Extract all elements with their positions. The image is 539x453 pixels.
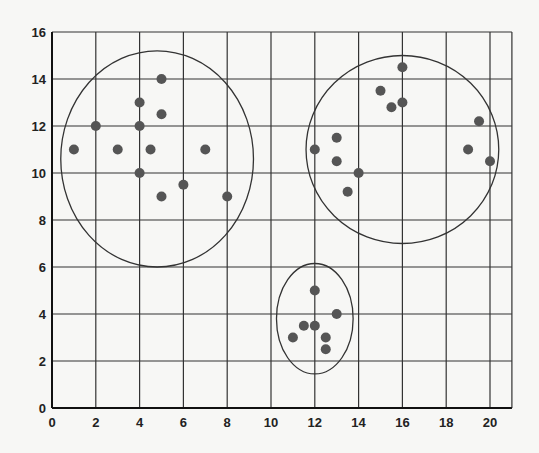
y-tick-label: 16 [32,25,46,40]
data-point [332,156,342,166]
data-point [299,321,309,331]
data-point [135,121,145,131]
x-tick-label: 10 [264,415,278,430]
data-point [397,62,407,72]
data-point [397,98,407,108]
data-point [146,145,156,155]
y-tick-label: 4 [39,307,47,322]
y-tick-label: 10 [32,166,46,181]
data-point [310,145,320,155]
x-axis-ticks: 02468101214161820 [48,415,497,430]
grid-lines [52,32,512,408]
y-axis-ticks: 0246810121416 [32,25,47,416]
y-tick-label: 8 [39,213,46,228]
scatter-chart: 02468101214161820 0246810121416 [0,0,539,453]
data-point [113,145,123,155]
data-point [376,86,386,96]
y-tick-label: 6 [39,260,46,275]
data-point [157,109,167,119]
data-point [321,344,331,354]
data-point [200,145,210,155]
x-tick-label: 20 [483,415,497,430]
x-tick-label: 14 [351,415,366,430]
x-tick-label: 8 [224,415,231,430]
y-tick-label: 0 [39,401,46,416]
data-point [343,187,353,197]
data-point [310,286,320,296]
data-point [321,333,331,343]
data-point [178,180,188,190]
x-tick-label: 0 [48,415,55,430]
y-tick-label: 12 [32,119,46,134]
data-point [157,192,167,202]
data-point [135,168,145,178]
x-tick-label: 12 [308,415,322,430]
data-points [69,62,495,354]
data-point [91,121,101,131]
data-point [332,309,342,319]
x-tick-label: 18 [439,415,453,430]
data-point [463,145,473,155]
x-tick-label: 16 [395,415,409,430]
x-tick-label: 6 [180,415,187,430]
y-tick-label: 14 [32,72,47,87]
cluster-ellipse [61,51,254,267]
data-point [310,321,320,331]
data-point [474,116,484,126]
x-tick-label: 2 [92,415,99,430]
cluster-ellipses [61,51,499,374]
data-point [157,74,167,84]
data-point [354,168,364,178]
y-tick-label: 2 [39,354,46,369]
data-point [222,192,232,202]
data-point [332,133,342,143]
data-point [386,102,396,112]
data-point [135,98,145,108]
x-tick-label: 4 [136,415,144,430]
data-point [69,145,79,155]
data-point [485,156,495,166]
data-point [288,333,298,343]
